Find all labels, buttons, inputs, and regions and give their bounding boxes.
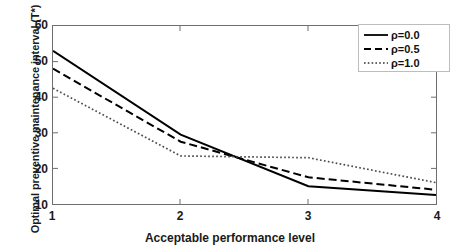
legend-line-dotted	[363, 58, 389, 68]
x-tick-2: 2	[165, 209, 195, 223]
legend-label-rho-1: ρ=1.0	[391, 57, 420, 69]
legend-line-dashed	[363, 44, 389, 54]
y-tick-20: 20	[20, 162, 48, 176]
data-series-layer	[53, 51, 436, 195]
legend-item-rho-0: ρ=0.0	[363, 28, 445, 42]
y-tick-30: 30	[20, 126, 48, 140]
y-tick-60: 60	[20, 18, 48, 32]
figure: Optimal preventive maintenance interval …	[0, 0, 460, 250]
x-tick-4: 4	[422, 209, 452, 223]
legend-line-solid	[363, 30, 389, 40]
legend-item-rho-05: ρ=0.5	[363, 42, 445, 56]
legend: ρ=0.0 ρ=0.5 ρ=1.0	[358, 24, 450, 72]
series-line-rho-00	[53, 51, 436, 195]
x-tick-3: 3	[293, 209, 323, 223]
legend-label-rho-0: ρ=0.0	[391, 29, 420, 41]
y-tick-40: 40	[20, 90, 48, 104]
x-tick-1: 1	[37, 209, 67, 223]
x-axis-label: Acceptable performance level	[0, 231, 460, 245]
legend-item-rho-1: ρ=1.0	[363, 56, 445, 70]
y-tick-50: 50	[20, 54, 48, 68]
series-line-rho-05	[53, 69, 436, 190]
legend-label-rho-05: ρ=0.5	[391, 43, 420, 55]
